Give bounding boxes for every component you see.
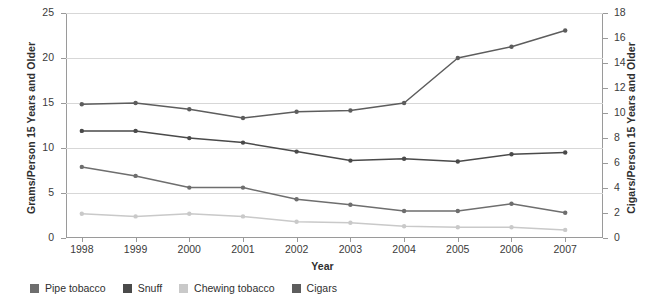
- legend-item[interactable]: Pipe tobacco: [30, 282, 106, 294]
- legend-item[interactable]: Cigars: [292, 282, 337, 294]
- data-point: [294, 149, 298, 153]
- data-point: [509, 202, 513, 206]
- data-point: [187, 136, 191, 140]
- data-point: [402, 101, 406, 105]
- data-point: [187, 212, 191, 216]
- series-layer: [0, 0, 645, 302]
- data-point: [294, 220, 298, 224]
- data-point: [402, 157, 406, 161]
- data-point: [402, 224, 406, 228]
- legend-swatch-icon: [179, 284, 188, 293]
- data-point: [133, 174, 137, 178]
- data-point: [241, 140, 245, 144]
- data-point: [80, 102, 84, 106]
- series-chewing-tobacco: [80, 212, 568, 233]
- legend-item[interactable]: Snuff: [123, 282, 162, 294]
- legend-label: Pipe tobacco: [45, 282, 106, 294]
- legend-label: Cigars: [307, 282, 337, 294]
- series-pipe-tobacco: [80, 165, 568, 215]
- data-point: [563, 228, 567, 232]
- data-point: [563, 150, 567, 154]
- legend-label: Chewing tobacco: [194, 282, 275, 294]
- data-point: [241, 185, 245, 189]
- series-snuff: [80, 129, 568, 164]
- legend-label: Snuff: [138, 282, 162, 294]
- data-point: [456, 209, 460, 213]
- data-point: [456, 225, 460, 229]
- legend-swatch-icon: [123, 284, 132, 293]
- data-point: [348, 108, 352, 112]
- data-point: [80, 212, 84, 216]
- data-point: [241, 116, 245, 120]
- data-point: [348, 158, 352, 162]
- data-point: [509, 45, 513, 49]
- data-point: [133, 129, 137, 133]
- series-line: [82, 131, 565, 162]
- data-point: [456, 159, 460, 163]
- data-point: [294, 197, 298, 201]
- legend-swatch-icon: [30, 284, 39, 293]
- chart-legend: Pipe tobaccoSnuffChewing tobaccoCigars: [30, 278, 337, 298]
- series-line: [82, 167, 565, 213]
- data-point: [241, 214, 245, 218]
- data-point: [509, 225, 513, 229]
- series-cigars: [80, 28, 568, 120]
- data-point: [80, 129, 84, 133]
- data-point: [402, 209, 406, 213]
- data-point: [187, 107, 191, 111]
- data-point: [563, 211, 567, 215]
- data-point: [348, 203, 352, 207]
- data-point: [133, 101, 137, 105]
- legend-swatch-icon: [292, 284, 301, 293]
- data-point: [80, 165, 84, 169]
- data-point: [133, 214, 137, 218]
- line-chart: Grams/Person 15 Years and Older Cigars/P…: [0, 0, 645, 302]
- data-point: [187, 185, 191, 189]
- data-point: [348, 221, 352, 225]
- data-point: [294, 110, 298, 114]
- data-point: [509, 152, 513, 156]
- data-point: [563, 28, 567, 32]
- data-point: [456, 56, 460, 60]
- legend-item[interactable]: Chewing tobacco: [179, 282, 275, 294]
- series-line: [82, 31, 565, 119]
- series-line: [82, 214, 565, 230]
